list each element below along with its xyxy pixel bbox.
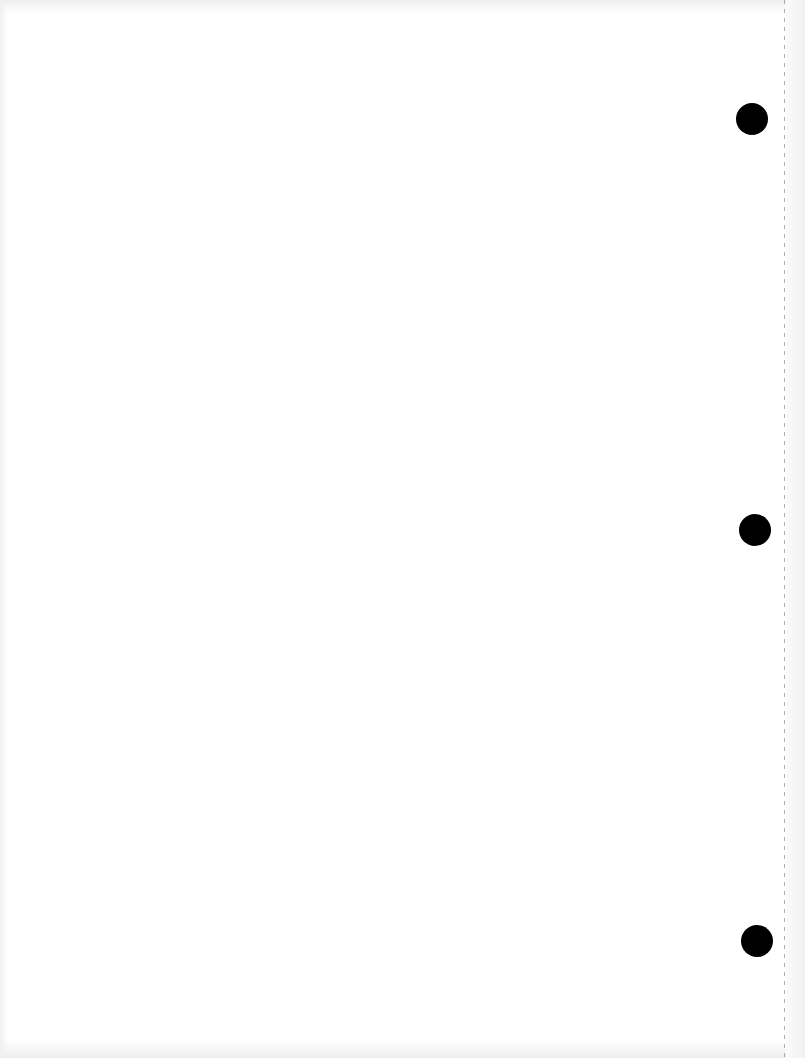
scanned-page [0,0,805,1058]
perforation-line [784,0,785,1058]
punch-hole-top [736,103,768,135]
scan-edge-shadow [0,0,8,1058]
punch-hole-middle [739,514,771,546]
tear-off-strip [786,0,805,1058]
punch-hole-bottom [741,925,773,957]
